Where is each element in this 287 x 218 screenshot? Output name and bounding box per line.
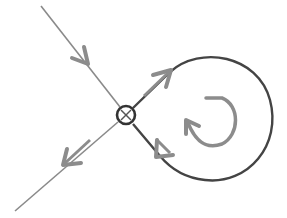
homoclinic-loop: [133, 57, 272, 180]
unstable-manifold: [15, 122, 118, 211]
arrow-up-right-icon: [144, 70, 171, 96]
rotation-arrow-icon: [186, 98, 236, 146]
diagram-canvas: Homoclinic orbit at saddle point: [0, 0, 287, 218]
saddle-point: [117, 106, 135, 124]
arrow-down-left-icon: [63, 140, 90, 165]
stable-manifold: [41, 6, 120, 107]
